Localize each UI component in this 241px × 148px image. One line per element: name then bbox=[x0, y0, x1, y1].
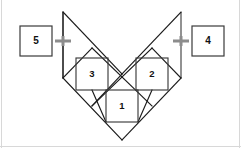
cross-markers-group bbox=[55, 36, 189, 46]
diagram-canvas: 123 54 bbox=[0, 0, 241, 148]
edge-tr-to-center bbox=[122, 12, 181, 74]
figure-container: 123 54 bbox=[0, 0, 241, 148]
callout-5-label: 5 bbox=[33, 35, 39, 46]
frame-edges bbox=[0, 0, 241, 148]
diagonal-line-network bbox=[63, 12, 181, 140]
square-2-label: 2 bbox=[149, 68, 154, 79]
inner-squares-group: 123 bbox=[76, 58, 168, 122]
edge-right-upper bbox=[152, 48, 181, 78]
edge-left-upper bbox=[63, 48, 92, 78]
guide-lines bbox=[63, 12, 181, 78]
edge-tl-to-bottom bbox=[63, 12, 122, 74]
marker-right-vertical bbox=[180, 36, 183, 46]
edge-left-v bbox=[63, 78, 122, 140]
square-1-label: 1 bbox=[119, 100, 125, 111]
callout-4-label: 4 bbox=[205, 35, 211, 46]
edge-right-v bbox=[122, 78, 181, 140]
marker-left-vertical bbox=[62, 36, 65, 46]
square-3-label: 3 bbox=[89, 68, 94, 79]
callout-boxes-group: 54 bbox=[20, 26, 224, 56]
